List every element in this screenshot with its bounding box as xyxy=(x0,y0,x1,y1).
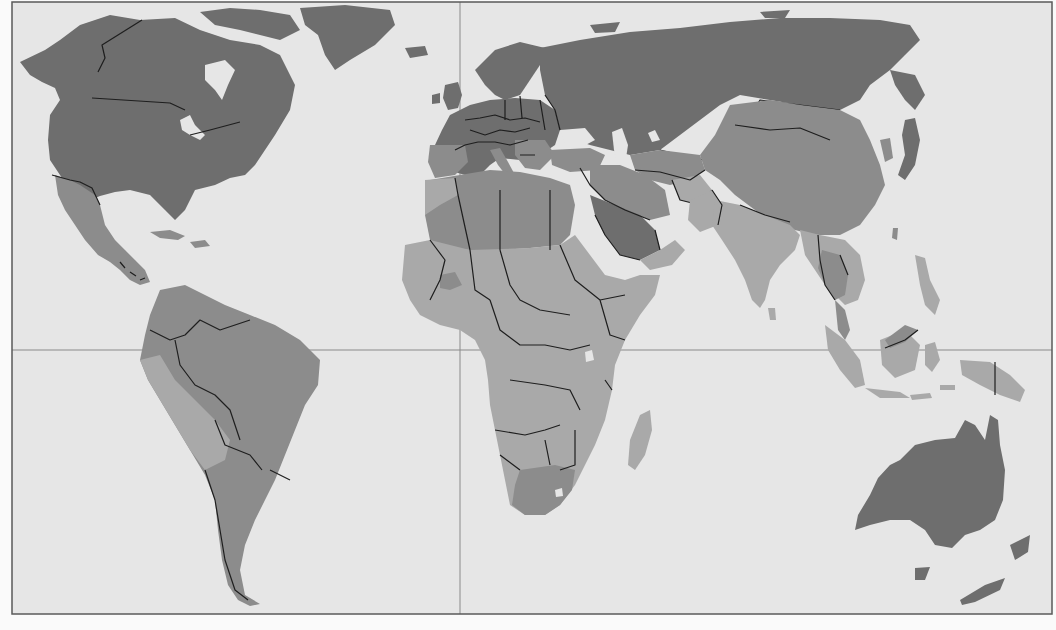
world-map xyxy=(0,0,1056,630)
map-canvas xyxy=(0,0,1056,630)
region-taiwan xyxy=(892,228,898,240)
